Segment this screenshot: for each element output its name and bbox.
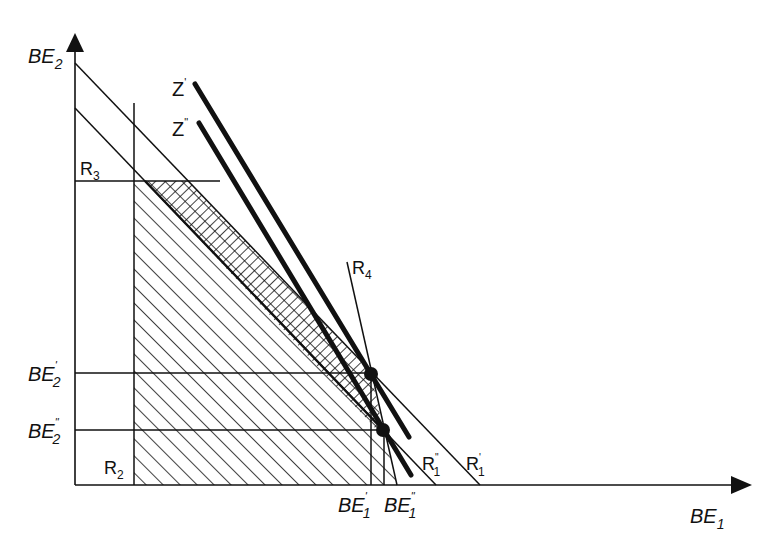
be1-double-label: BE"1 bbox=[384, 490, 416, 521]
r1-double-prime-label: R"1 bbox=[422, 452, 441, 479]
r2-label: R2 bbox=[104, 458, 124, 482]
y-axis-label: BE2 bbox=[28, 45, 63, 72]
be1-prime-label: BE'1 bbox=[338, 490, 371, 521]
y-axis-arrow-icon bbox=[66, 33, 84, 52]
z-prime-label: Z' bbox=[172, 76, 186, 100]
optimum-point-double bbox=[376, 423, 390, 437]
r3-label: R3 bbox=[80, 159, 100, 183]
x-axis-label: BE1 bbox=[690, 505, 724, 532]
z-double-prime-label: Z" bbox=[172, 116, 188, 140]
optimum-point-prime bbox=[364, 367, 378, 381]
r1-prime-label: R'1 bbox=[466, 452, 485, 479]
be2-double-label: BE"2 bbox=[28, 416, 61, 447]
y-axis bbox=[66, 33, 84, 485]
be2-prime-label: BE'2 bbox=[28, 359, 61, 390]
x-axis-arrow-icon bbox=[731, 476, 752, 494]
feasible-region-hatch bbox=[130, 175, 410, 490]
constraint-diagram: BE2 BE1 BE'2 BE"2 BE'1 BE"1 Z' Z" R3 R2 … bbox=[0, 0, 772, 549]
r4-label: R4 bbox=[352, 258, 372, 282]
